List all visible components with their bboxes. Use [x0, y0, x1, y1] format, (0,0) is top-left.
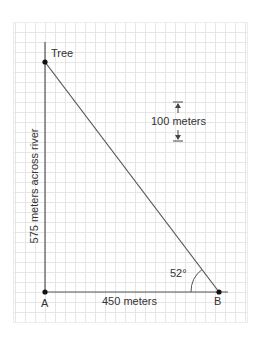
horizontal-side-label: 450 meters	[102, 295, 158, 307]
point-b-label: B	[214, 295, 221, 307]
triangle-diagram: Tree A B 450 meters 52° 100 meters 575 m…	[0, 0, 260, 338]
point-a-label: A	[41, 297, 49, 309]
point-a	[42, 289, 47, 294]
scale-label: 100 meters	[151, 115, 207, 127]
vertical-side-label: 575 meters across river	[28, 128, 40, 243]
point-b	[216, 289, 221, 294]
hypotenuse-line	[45, 62, 219, 292]
tree-point	[42, 59, 47, 64]
angle-label: 52°	[170, 267, 187, 279]
tree-label: Tree	[51, 47, 73, 59]
